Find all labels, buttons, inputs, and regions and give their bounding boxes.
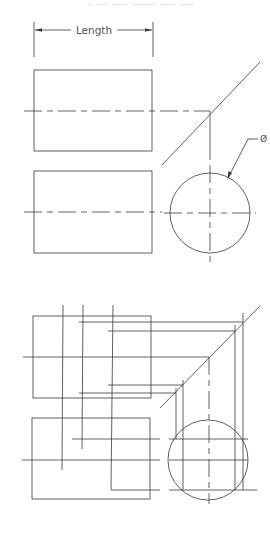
length-dimension: Length bbox=[34, 22, 153, 57]
bottom-figure bbox=[22, 305, 260, 504]
leader-line bbox=[228, 139, 258, 178]
diameter-leader: Ø bbox=[228, 134, 268, 179]
vertical-construction-line-2 bbox=[82, 305, 83, 449]
top-view-rectangle-2 bbox=[32, 418, 150, 499]
orthographic-projection-drawing: — —— ——— ————— ——— ——— Length bbox=[0, 0, 270, 535]
arrowhead-right-icon bbox=[145, 28, 152, 31]
diameter-symbol: Ø bbox=[260, 134, 267, 144]
header-text: — —— ——— ————— ——— ——— bbox=[88, 0, 194, 9]
vertical-construction-line-3 bbox=[111, 305, 113, 490]
miter-line bbox=[162, 62, 260, 165]
top-figure: Length Ø bbox=[24, 22, 267, 262]
front-view-rectangle bbox=[34, 70, 152, 151]
length-label: Length bbox=[76, 24, 112, 36]
arrowhead-left-icon bbox=[35, 28, 42, 31]
vertical-construction-line-1 bbox=[62, 305, 63, 470]
